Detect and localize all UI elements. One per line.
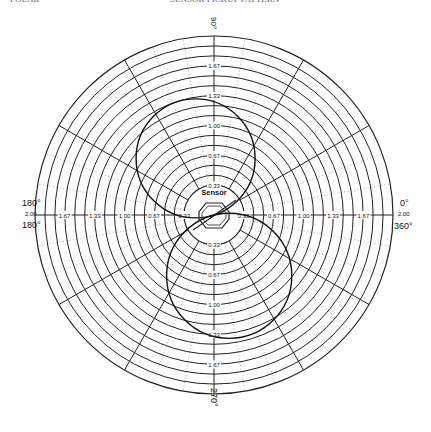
ring-value-label: 1.33 [327, 213, 339, 219]
minor-spoke [183, 39, 209, 186]
ring-label-2-left: 2.00 [25, 211, 37, 217]
ring-value-label: 1.67 [208, 63, 220, 69]
polar-plot: 0.330.330.330.330.670.670.670.671.001.00… [0, 0, 431, 432]
minor-spoke [219, 245, 245, 392]
angle-label-180-bottom: 180° [22, 220, 41, 230]
header-center-text: SENSOR PICKUP PATTERN [170, 0, 279, 4]
minor-spoke [38, 184, 185, 210]
angle-label-270: 270° [209, 388, 219, 407]
minor-spoke [99, 238, 195, 352]
minor-spoke [183, 245, 209, 392]
minor-spoke [237, 234, 351, 330]
minor-spoke [38, 220, 185, 246]
minor-spoke [77, 100, 191, 196]
ring-value-label: 0.67 [208, 272, 220, 278]
ring-value-label: 1.67 [208, 362, 220, 368]
ring-value-label: 0.67 [268, 213, 280, 219]
ring-value-label: 1.67 [358, 213, 370, 219]
minor-spoke [233, 78, 329, 192]
ring-value-label: 1.00 [119, 213, 131, 219]
ring-value-label: 1.00 [208, 302, 220, 308]
ring-value-label: 0.67 [148, 213, 160, 219]
angle-label-90: 90° [209, 17, 218, 29]
angle-label-180-top: 180° [22, 198, 41, 208]
ring-value-label: 0.67 [208, 153, 220, 159]
ring-value-label: 1.00 [298, 213, 310, 219]
polar-diagram: POLAR SENSOR PICKUP PATTERN 0.330.330.33… [0, 0, 431, 432]
ring-value-label: 1.00 [208, 123, 220, 129]
ring-value-label: 1.33 [208, 93, 220, 99]
angle-label-0: 0° [400, 198, 409, 208]
minor-spoke [99, 78, 195, 192]
minor-spoke [77, 234, 191, 330]
minor-spoke [244, 184, 391, 210]
ring-value-label: 1.67 [59, 213, 71, 219]
ring-value-label: 1.33 [89, 213, 101, 219]
ring-label-2-right: 2.00 [398, 211, 410, 217]
header-left-text: POLAR [10, 0, 40, 4]
angle-label-360: 360° [394, 221, 413, 231]
ring-value-label: 0.33 [208, 242, 220, 248]
sensor-label: Sensor [201, 188, 227, 197]
